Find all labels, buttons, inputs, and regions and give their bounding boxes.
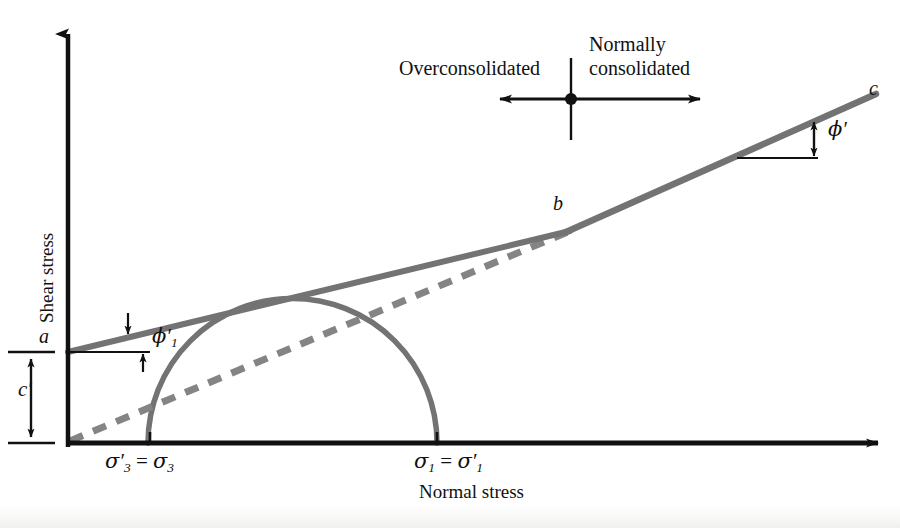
region-label-normally-consolidated-line2: consolidated [589, 57, 690, 79]
point-label-a: a [39, 325, 49, 347]
phi-prime-prime: ′ [842, 117, 847, 141]
y-axis-label: Shear stress [36, 233, 57, 323]
failure-envelope-segment-bc [566, 94, 876, 232]
point-label-c: c [869, 77, 878, 99]
cohesion-label: c′ [18, 378, 32, 402]
phi-prime-1-label: ϕ′1 [152, 325, 178, 350]
sigma1-primed-subscript: 1 [476, 460, 483, 475]
cohesion-prime: ′ [27, 377, 32, 401]
point-label-b: b [553, 192, 563, 214]
cohesion-symbol: c [18, 377, 27, 401]
failure-envelope-segment-ab [68, 231, 570, 352]
x-axis-label: Normal stress [419, 481, 524, 502]
region-label-normally-consolidated-line1: Normally [589, 33, 666, 55]
sigma1-symbol: σ [414, 449, 428, 473]
sigma3-symbol: σ [153, 449, 167, 473]
phi-glyph: ϕ [152, 324, 166, 348]
mohr-coulomb-failure-envelope-figure: Shear stress Normal stress Overconsolida… [0, 0, 900, 528]
sigma3-equals: = [131, 449, 153, 473]
phi-prime-1-subscript: 1 [171, 335, 178, 350]
region-label-overconsolidated: Overconsolidated [399, 57, 540, 79]
phi-glyph: ϕ [828, 117, 842, 141]
sigma3-primed-symbol: σ [105, 449, 119, 473]
sigma1-primed-symbol: σ [457, 449, 471, 473]
sigma3-subscript: 3 [167, 460, 174, 475]
sigma3-primed-subscript: 3 [124, 460, 131, 475]
sigma1-label: σ1 = σ′1 [414, 450, 483, 475]
sigma1-equals: = [435, 449, 457, 473]
region-divider-center-dot [565, 93, 577, 105]
phi-prime-label: ϕ′ [828, 118, 847, 142]
sigma3-label: σ′3 = σ3 [105, 450, 174, 475]
